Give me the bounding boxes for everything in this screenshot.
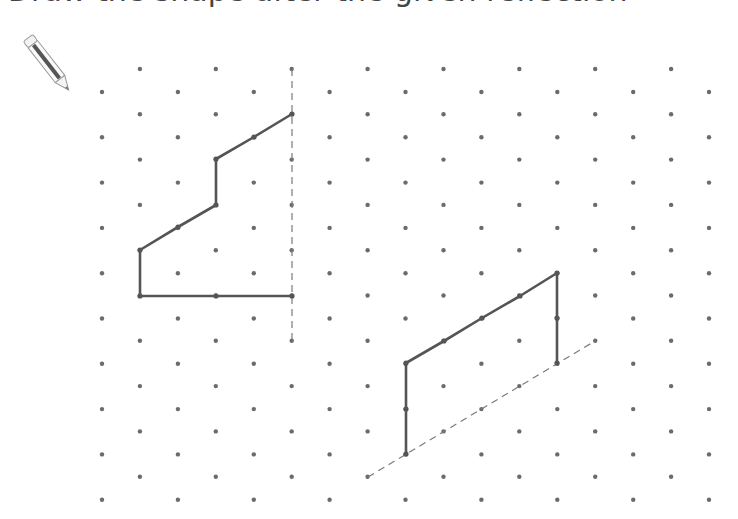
grid-dot[interactable] bbox=[441, 248, 445, 252]
grid-dot[interactable] bbox=[252, 498, 256, 502]
grid-dot[interactable] bbox=[631, 407, 635, 411]
grid-dot[interactable] bbox=[555, 180, 559, 184]
grid-dot[interactable] bbox=[290, 384, 294, 388]
grid-dot[interactable] bbox=[403, 316, 407, 320]
grid-dot[interactable] bbox=[327, 452, 331, 456]
isometric-dot-grid[interactable] bbox=[0, 0, 738, 519]
grid-dot[interactable] bbox=[631, 316, 635, 320]
grid-dot[interactable] bbox=[555, 90, 559, 94]
grid-dot[interactable] bbox=[631, 452, 635, 456]
grid-dot[interactable] bbox=[517, 67, 521, 71]
grid-dot[interactable] bbox=[365, 248, 369, 252]
grid-dot[interactable] bbox=[100, 180, 104, 184]
grid-dot[interactable] bbox=[669, 339, 673, 343]
grid-dot[interactable] bbox=[479, 452, 483, 456]
grid-dot[interactable] bbox=[593, 293, 597, 297]
grid-dot[interactable] bbox=[138, 339, 142, 343]
grid-dot[interactable] bbox=[707, 407, 711, 411]
grid-dot[interactable] bbox=[214, 67, 218, 71]
grid-dot[interactable] bbox=[593, 475, 597, 479]
grid-dot[interactable] bbox=[517, 339, 521, 343]
grid-dot[interactable] bbox=[176, 407, 180, 411]
grid-dot[interactable] bbox=[669, 475, 673, 479]
grid-dot[interactable] bbox=[555, 407, 559, 411]
grid-dot[interactable] bbox=[669, 203, 673, 207]
grid-dot[interactable] bbox=[327, 362, 331, 366]
grid-dot[interactable] bbox=[707, 271, 711, 275]
grid-dot[interactable] bbox=[479, 90, 483, 94]
grid-dot[interactable] bbox=[555, 498, 559, 502]
grid-dot[interactable] bbox=[403, 135, 407, 139]
grid-dot[interactable] bbox=[365, 429, 369, 433]
grid-dot[interactable] bbox=[252, 271, 256, 275]
grid-dot[interactable] bbox=[441, 475, 445, 479]
grid-dot[interactable] bbox=[479, 362, 483, 366]
grid-dot[interactable] bbox=[100, 362, 104, 366]
grid-dot[interactable] bbox=[365, 67, 369, 71]
grid-dot[interactable] bbox=[176, 362, 180, 366]
grid-dot[interactable] bbox=[517, 429, 521, 433]
grid-dot[interactable] bbox=[707, 135, 711, 139]
grid-dot[interactable] bbox=[593, 112, 597, 116]
grid-dot[interactable] bbox=[214, 339, 218, 343]
grid-dot[interactable] bbox=[252, 316, 256, 320]
grid-dot[interactable] bbox=[100, 452, 104, 456]
grid-dot[interactable] bbox=[327, 407, 331, 411]
grid-dot[interactable] bbox=[517, 475, 521, 479]
grid-dot[interactable] bbox=[403, 271, 407, 275]
grid-dot[interactable] bbox=[669, 429, 673, 433]
grid-dot[interactable] bbox=[252, 180, 256, 184]
grid-dot[interactable] bbox=[593, 67, 597, 71]
grid-dot[interactable] bbox=[631, 226, 635, 230]
grid-dot[interactable] bbox=[707, 180, 711, 184]
grid-dot[interactable] bbox=[138, 203, 142, 207]
grid-dot[interactable] bbox=[365, 339, 369, 343]
grid-dot[interactable] bbox=[214, 384, 218, 388]
grid-dot[interactable] bbox=[252, 452, 256, 456]
grid-dot[interactable] bbox=[517, 157, 521, 161]
grid-dot[interactable] bbox=[707, 90, 711, 94]
grid-dot[interactable] bbox=[479, 498, 483, 502]
grid-dot[interactable] bbox=[631, 90, 635, 94]
grid-dot[interactable] bbox=[555, 452, 559, 456]
grid-dot[interactable] bbox=[176, 271, 180, 275]
grid-dot[interactable] bbox=[290, 475, 294, 479]
grid-dot[interactable] bbox=[138, 112, 142, 116]
grid-dot[interactable] bbox=[252, 407, 256, 411]
grid-dot[interactable] bbox=[214, 112, 218, 116]
grid-dot[interactable] bbox=[441, 157, 445, 161]
grid-dot[interactable] bbox=[214, 475, 218, 479]
grid-dot[interactable] bbox=[214, 248, 218, 252]
grid-dot[interactable] bbox=[517, 248, 521, 252]
grid-dot[interactable] bbox=[327, 316, 331, 320]
grid-dot[interactable] bbox=[403, 226, 407, 230]
grid-dot[interactable] bbox=[365, 384, 369, 388]
grid-dot[interactable] bbox=[593, 157, 597, 161]
grid-dot[interactable] bbox=[138, 475, 142, 479]
grid-dot[interactable] bbox=[138, 157, 142, 161]
grid-dot[interactable] bbox=[631, 498, 635, 502]
grid-dot[interactable] bbox=[479, 180, 483, 184]
grid-dot[interactable] bbox=[403, 180, 407, 184]
grid-dot[interactable] bbox=[365, 157, 369, 161]
grid-dot[interactable] bbox=[100, 226, 104, 230]
grid-dot[interactable] bbox=[176, 90, 180, 94]
grid-dot[interactable] bbox=[669, 384, 673, 388]
grid-dot[interactable] bbox=[631, 271, 635, 275]
grid-dot[interactable] bbox=[327, 271, 331, 275]
grid-dot[interactable] bbox=[593, 203, 597, 207]
grid-dot[interactable] bbox=[176, 180, 180, 184]
grid-dot[interactable] bbox=[441, 67, 445, 71]
grid-dot[interactable] bbox=[631, 362, 635, 366]
grid-dot[interactable] bbox=[327, 180, 331, 184]
grid-dot[interactable] bbox=[214, 429, 218, 433]
grid-dot[interactable] bbox=[138, 429, 142, 433]
grid-dot[interactable] bbox=[555, 135, 559, 139]
grid-dot[interactable] bbox=[100, 271, 104, 275]
grid-dot[interactable] bbox=[138, 67, 142, 71]
grid-dot[interactable] bbox=[479, 271, 483, 275]
grid-dot[interactable] bbox=[100, 316, 104, 320]
grid-dot[interactable] bbox=[593, 384, 597, 388]
grid-dot[interactable] bbox=[100, 90, 104, 94]
grid-dot[interactable] bbox=[517, 112, 521, 116]
